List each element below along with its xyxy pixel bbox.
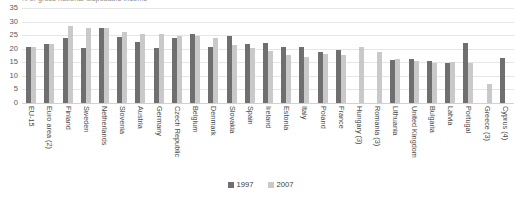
y-axis-tick-labels: 05101520253035	[0, 8, 18, 103]
x-label-cell: United Kingdom	[405, 104, 423, 172]
legend-swatch-icon	[228, 182, 234, 188]
chart-title: % of gross national disposable income	[21, 0, 147, 3]
bar-group	[368, 8, 386, 103]
legend-swatch-icon	[268, 182, 274, 188]
bar-2007	[159, 34, 164, 103]
x-axis-label: Netherlands	[100, 106, 108, 145]
bar-2007	[468, 63, 473, 103]
x-axis-label: Ireland	[264, 106, 272, 128]
bar-2007	[31, 47, 36, 103]
bar-group	[405, 8, 423, 103]
bar-group	[95, 8, 113, 103]
x-label-cell: Spain	[241, 104, 259, 172]
y-tick-30: 30	[0, 18, 18, 26]
y-tick-5: 5	[0, 85, 18, 93]
x-axis-label: Hungary (3)	[355, 106, 363, 145]
bar-2007	[49, 44, 54, 103]
bar-group	[423, 8, 441, 103]
bar-group	[459, 8, 477, 103]
bar-2007	[341, 55, 346, 103]
x-axis-label: Austria	[136, 106, 144, 129]
bar-2007	[432, 63, 437, 103]
x-label-cell: Hungary (3)	[350, 104, 368, 172]
x-axis-label: Slovenia	[118, 106, 126, 134]
y-tick-0: 0	[0, 99, 18, 107]
x-axis-label: Poland	[319, 106, 327, 129]
bar-group	[222, 8, 240, 103]
x-axis-label: Bulgaria	[428, 106, 436, 133]
bar-group	[186, 8, 204, 103]
x-label-cell: Euro area (2)	[40, 104, 58, 172]
x-axis-label: Greece (3)	[483, 106, 491, 141]
bar-group	[496, 8, 514, 103]
bar-2007	[323, 54, 328, 103]
bar-2007	[450, 62, 455, 103]
bar-2007	[395, 59, 400, 104]
bar-group	[168, 8, 186, 103]
chart-container: % of gross national disposable income 05…	[0, 0, 521, 203]
x-label-cell: Poland	[314, 104, 332, 172]
x-axis-label: Finland	[64, 106, 72, 130]
x-label-cell: Romania (3)	[368, 104, 386, 172]
x-label-cell: Slovakia	[222, 104, 240, 172]
x-axis-label: Cyprus (4)	[501, 106, 509, 140]
bar-group	[295, 8, 313, 103]
bar-2007	[268, 51, 273, 103]
x-axis-label: Portugal	[464, 106, 472, 133]
bar-group	[350, 8, 368, 103]
x-label-cell: Bulgaria	[423, 104, 441, 172]
bar-group	[131, 8, 149, 103]
bar-group	[40, 8, 58, 103]
x-axis-label: Slovakia	[228, 106, 236, 134]
x-label-cell: France	[332, 104, 350, 172]
x-label-cell: Belgium	[186, 104, 204, 172]
x-label-cell: Cyprus (4)	[496, 104, 514, 172]
bar-group	[241, 8, 259, 103]
x-axis-label: Euro area (2)	[45, 106, 53, 149]
y-tick-10: 10	[0, 72, 18, 80]
x-label-cell: Latvia	[441, 104, 459, 172]
x-axis-label: Czech Republic	[173, 106, 181, 157]
x-axis-category-labels: EU-15Euro area (2)FinlandSwedenNetherlan…	[22, 104, 514, 172]
x-label-cell: Czech Republic	[168, 104, 186, 172]
bar-group	[150, 8, 168, 103]
y-tick-20: 20	[0, 45, 18, 53]
y-tick-25: 25	[0, 31, 18, 39]
bar-group	[204, 8, 222, 103]
legend-item-2007[interactable]: 2007	[268, 180, 294, 189]
x-label-cell: Portugal	[459, 104, 477, 172]
bar-group	[58, 8, 76, 103]
chart-legend: 19972007	[0, 180, 521, 189]
bar-group	[113, 8, 131, 103]
bar-2007	[86, 28, 91, 103]
bar-group	[277, 8, 295, 103]
x-label-cell: Denmark	[204, 104, 222, 172]
bar-2007	[104, 28, 109, 103]
bar-2007	[232, 45, 237, 103]
bar-2007	[195, 36, 200, 103]
bar-group	[441, 8, 459, 103]
x-axis-label: Belgium	[191, 106, 199, 132]
x-label-cell: Netherlands	[95, 104, 113, 172]
x-label-cell: Finland	[58, 104, 76, 172]
legend-label: 2007	[277, 180, 294, 189]
x-axis-label: Lithuania	[391, 106, 399, 136]
plot-area	[22, 8, 514, 103]
legend-item-1997[interactable]: 1997	[228, 180, 254, 189]
bar-2007	[213, 38, 218, 103]
bar-groups	[22, 8, 514, 103]
bar-2007	[414, 61, 419, 103]
y-tick-15: 15	[0, 58, 18, 66]
bar-1997	[500, 58, 505, 103]
bar-group	[77, 8, 95, 103]
bar-2007	[377, 52, 382, 103]
bar-2007	[177, 36, 182, 103]
x-axis-label: Romania (3)	[373, 106, 381, 146]
bar-2007	[359, 47, 364, 103]
bar-2007	[250, 48, 255, 103]
y-tick-35: 35	[0, 4, 18, 12]
x-label-cell: Germany	[150, 104, 168, 172]
x-axis-label: Spain	[246, 106, 254, 125]
bar-2007	[68, 26, 73, 103]
x-axis-label: Italy	[300, 106, 308, 119]
